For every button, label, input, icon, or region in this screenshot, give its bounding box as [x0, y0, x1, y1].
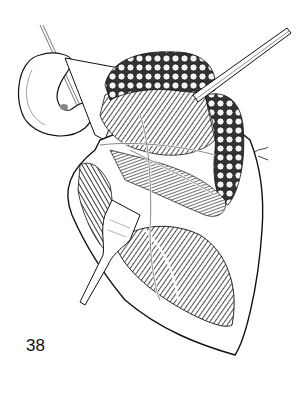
anatomical-illustration: [0, 0, 305, 396]
vessel-tie: [255, 147, 268, 160]
figure-number: 38: [26, 336, 45, 356]
